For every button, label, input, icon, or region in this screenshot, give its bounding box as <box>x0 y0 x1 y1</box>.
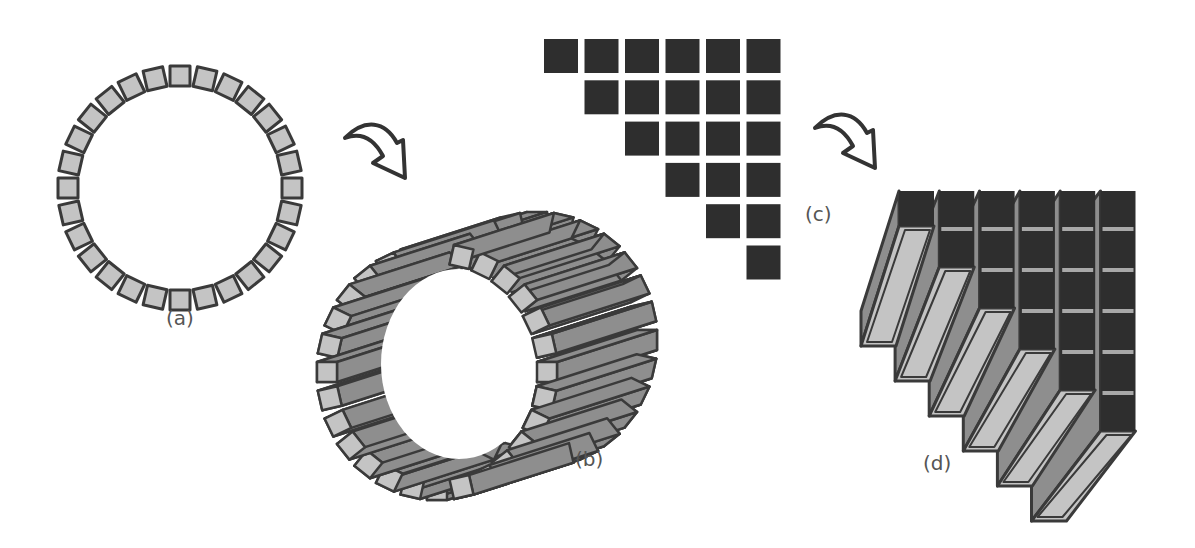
panel-d-extruded-grid <box>861 191 1136 521</box>
figure-canvas: (a) (b) (c) (d) <box>0 0 1195 548</box>
grid-element <box>585 80 619 114</box>
panel-label-d: (d) <box>923 453 951 473</box>
grid-element <box>747 122 781 156</box>
ring-element <box>268 126 295 153</box>
ring-element <box>118 276 145 303</box>
curved-arrow-icon <box>345 125 405 178</box>
grid-element <box>625 39 659 73</box>
element-seam <box>1022 227 1053 231</box>
element-seam <box>982 227 1013 231</box>
grid-element <box>544 39 578 73</box>
element-seam <box>1022 309 1053 313</box>
element-seam <box>1103 350 1134 354</box>
grid-element <box>747 204 781 238</box>
ring-element <box>215 74 242 101</box>
panel-label-b: (b) <box>575 449 603 469</box>
panel-b-cylinder <box>317 212 657 500</box>
ring-element <box>143 67 167 91</box>
ring-element <box>193 285 217 309</box>
grid-element <box>747 39 781 73</box>
grid-element <box>706 80 740 114</box>
element-seam <box>1103 268 1134 272</box>
grid-element <box>666 122 700 156</box>
grid-element <box>706 39 740 73</box>
grid-element <box>666 39 700 73</box>
ring-element <box>277 201 301 225</box>
grid-element <box>666 163 700 197</box>
grid-element <box>747 80 781 114</box>
element-seam <box>1062 309 1093 313</box>
ring-element <box>118 74 145 101</box>
element-seam <box>1062 350 1093 354</box>
ring-element <box>268 223 295 250</box>
element-seam <box>941 227 972 231</box>
ring-element <box>215 276 242 303</box>
panel-a-ring <box>58 66 302 310</box>
ring-element <box>58 178 78 198</box>
ring-element <box>59 201 83 225</box>
element-seam <box>1062 227 1093 231</box>
grid-element <box>706 163 740 197</box>
element-seam <box>1022 268 1053 272</box>
ring-element <box>282 178 302 198</box>
grid-element <box>706 122 740 156</box>
grid-element <box>747 246 781 280</box>
grid-element <box>625 122 659 156</box>
element-seam <box>1103 227 1134 231</box>
grid-element <box>747 163 781 197</box>
ring-element <box>66 223 93 250</box>
ring-element <box>193 67 217 91</box>
ring-element <box>59 151 83 175</box>
ring-element <box>170 66 190 86</box>
ring-element <box>143 285 167 309</box>
ring-element <box>277 151 301 175</box>
element-seam <box>1103 391 1134 395</box>
curved-arrow-icon <box>815 115 875 168</box>
element-seam <box>1103 309 1134 313</box>
grid-element <box>666 80 700 114</box>
grid-element <box>625 80 659 114</box>
element-seam <box>1062 268 1093 272</box>
grid-element <box>706 204 740 238</box>
element-seam <box>982 268 1013 272</box>
grid-element <box>585 39 619 73</box>
panel-label-a: (a) <box>166 308 194 328</box>
panel-label-c: (c) <box>805 204 832 224</box>
ring-element <box>66 126 93 153</box>
